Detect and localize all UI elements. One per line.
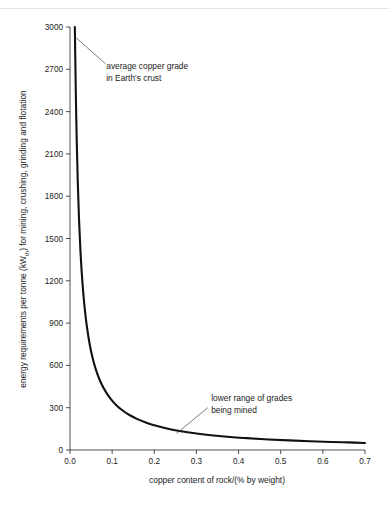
x-tick-label: 0.4 [233, 457, 245, 466]
annotation-group: average copper gradein Earth's crustlowe… [75, 37, 292, 433]
chart-svg: 03006009001200150018002100240027003000 0… [0, 0, 389, 513]
x-tick-group: 0.00.10.20.30.40.50.60.7 [64, 450, 371, 466]
annotation-lower-range-of-grades: lower range of gradesbeing mined [211, 393, 292, 415]
y-axis-title: energy requirements per tonne (kWth) for… [18, 90, 30, 388]
y-tick-label: 900 [49, 319, 63, 328]
x-tick-label: 0.5 [275, 457, 287, 466]
chart-figure: 03006009001200150018002100240027003000 0… [0, 0, 389, 513]
y-tick-label: 2400 [45, 108, 64, 117]
data-curve [75, 27, 365, 443]
annotation-leader-line [75, 37, 105, 64]
x-tick-label: 0.1 [106, 457, 118, 466]
x-tick-label: 0.6 [317, 457, 329, 466]
x-tick-label: 0.3 [191, 457, 203, 466]
y-tick-label: 1200 [45, 277, 64, 286]
x-tick-label: 0.2 [149, 457, 161, 466]
annotation-leader-line [177, 408, 208, 434]
y-tick-label: 2100 [45, 150, 64, 159]
x-tick-label: 0.0 [64, 457, 76, 466]
y-tick-label: 3000 [45, 23, 64, 32]
x-tick-label: 0.7 [359, 457, 371, 466]
y-tick-label: 1800 [45, 192, 64, 201]
y-tick-group: 03006009001200150018002100240027003000 [45, 23, 70, 455]
y-tick-label: 600 [49, 361, 63, 370]
y-tick-label: 2700 [45, 65, 64, 74]
y-tick-label: 300 [49, 404, 63, 413]
x-axis-title: copper content of rock/(% by weight) [149, 475, 285, 485]
y-tick-label: 0 [58, 446, 63, 455]
y-tick-label: 1500 [45, 235, 64, 244]
annotation-average-copper-grade: average copper gradein Earth's crust [106, 61, 188, 83]
figure-page: 03006009001200150018002100240027003000 0… [0, 0, 389, 513]
